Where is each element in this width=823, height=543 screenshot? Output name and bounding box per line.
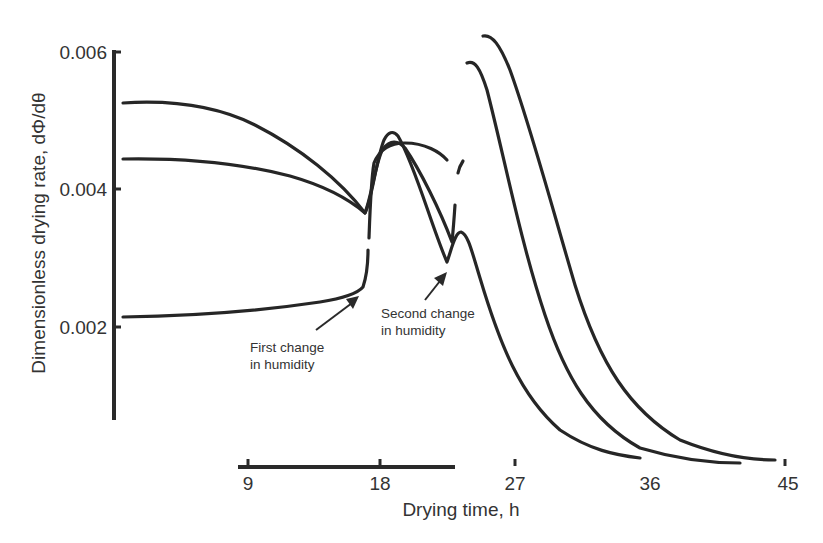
x-tick-label-18: 18 <box>369 473 390 494</box>
curve-2-part-b <box>467 62 740 463</box>
annotation-first-line2: in humidity <box>250 357 315 372</box>
y-tick-label-0.006: 0.006 <box>59 42 107 63</box>
x-tick-label-9: 9 <box>243 473 254 494</box>
arrowhead-second-change-icon <box>434 272 447 286</box>
annotation-second-line2: in humidity <box>381 323 446 338</box>
x-tick-label-45: 45 <box>777 473 798 494</box>
annotation-second-change: Second change in humidity <box>381 272 475 338</box>
curve-3-part-c <box>458 161 463 173</box>
x-tick-label-27: 27 <box>504 473 525 494</box>
drying-rate-chart: 0.006 0.004 0.002 Dimensionless drying r… <box>0 0 823 543</box>
annotation-first-line1: First change <box>250 340 324 355</box>
annotation-second-line1: Second change <box>381 306 475 321</box>
x-axis-title: Drying time, h <box>402 499 519 520</box>
y-axis-title: Dimensionless drying rate, dΦ/dθ <box>28 92 49 373</box>
curve-2-part-a <box>123 142 455 242</box>
curve-3-part-a <box>123 250 368 317</box>
y-axis: 0.006 0.004 0.002 Dimensionless drying r… <box>28 42 121 420</box>
y-tick-label-0.004: 0.004 <box>59 179 107 200</box>
x-tick-label-36: 36 <box>639 473 660 494</box>
y-tick-label-0.002: 0.002 <box>59 317 107 338</box>
arrow-first-change <box>316 303 352 330</box>
arrow-second-change <box>425 281 440 300</box>
x-axis: 9 18 27 36 45 Drying time, h <box>238 459 799 520</box>
